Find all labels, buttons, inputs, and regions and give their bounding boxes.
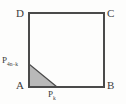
geometry-figure: D C A B P4n−k Pk bbox=[0, 0, 126, 104]
point-label-subscript: 4n−k bbox=[7, 61, 18, 67]
point-label-subscript: k bbox=[53, 95, 56, 101]
point-label-p-4n-minus-k: P4n−k bbox=[2, 56, 18, 67]
vertex-label-C: C bbox=[107, 8, 114, 19]
point-label-p-k: Pk bbox=[48, 90, 56, 101]
vertex-label-D: D bbox=[16, 8, 24, 19]
vertex-label-B: B bbox=[107, 80, 114, 91]
shaded-triangle bbox=[29, 64, 57, 87]
vertex-label-A: A bbox=[16, 80, 24, 91]
